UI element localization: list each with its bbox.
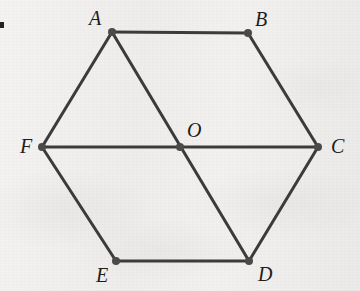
vertex-label-C: C: [331, 136, 344, 156]
vertex-label-E: E: [96, 265, 108, 285]
vertex-dot-D: [245, 257, 253, 265]
vertex-dot-C: [314, 143, 322, 151]
vertex-dot-A: [108, 28, 116, 36]
hexagon-diagram: [0, 0, 360, 291]
segment-FA: [42, 32, 112, 147]
vertex-label-D: D: [258, 264, 272, 284]
vertex-label-O: O: [187, 120, 201, 140]
segment-EF: [42, 147, 116, 261]
vertex-dot-E: [112, 257, 120, 265]
vertex-label-F: F: [20, 136, 32, 156]
figure-canvas: ABCDEFO: [0, 0, 360, 291]
vertex-label-A: A: [89, 8, 101, 28]
vertex-dot-B: [244, 29, 252, 37]
segment-BC: [248, 33, 318, 147]
vertex-dot-O: [176, 143, 184, 151]
segment-AB: [112, 32, 248, 33]
segment-CD: [249, 147, 318, 261]
vertex-label-B: B: [255, 9, 267, 29]
vertex-dot-F: [38, 143, 46, 151]
